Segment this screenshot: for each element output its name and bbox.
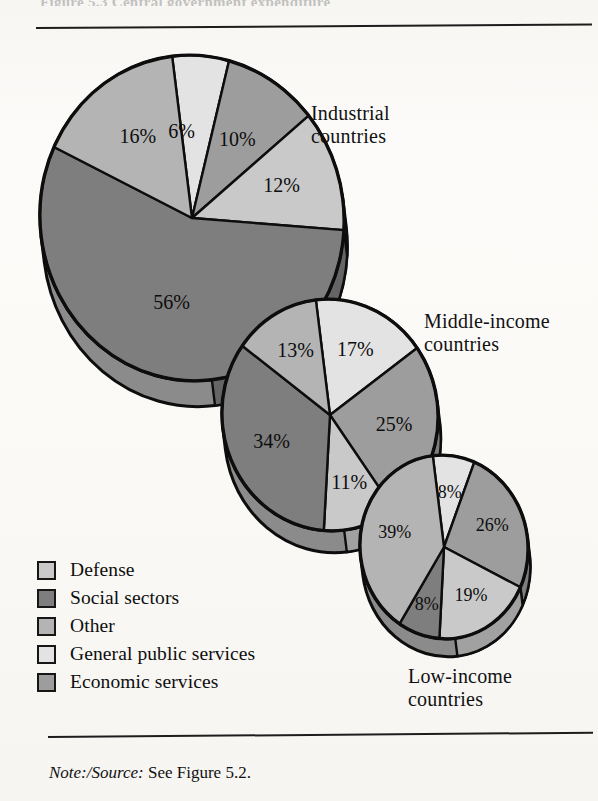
pie-industrial-label-other: 16% xyxy=(120,125,157,147)
pie-low-label-social-sectors: 8% xyxy=(415,594,439,614)
legend-swatch-economic xyxy=(37,673,56,692)
figure-page: Figure 5.3 Central government expenditur… xyxy=(0,0,598,801)
legend-swatch-defense xyxy=(37,561,56,580)
legend-label-other: Other xyxy=(70,616,115,636)
pie-middle-label-social-sectors: 34% xyxy=(253,430,290,452)
pie-industrial-label-general-public-services: 6% xyxy=(168,120,195,142)
legend-item-general_public: General public services xyxy=(37,640,255,668)
source-note-text: See Figure 5.2. xyxy=(144,763,251,782)
legend-label-general_public: General public services xyxy=(70,644,255,664)
legend-swatch-general_public xyxy=(37,645,56,664)
legend-label-social_sectors: Social sectors xyxy=(70,588,179,608)
pie-low-label-general-public-services: 8% xyxy=(438,482,462,502)
legend-item-defense: Defense xyxy=(37,556,255,584)
pie-middle-label-defense: 11% xyxy=(331,471,367,493)
legend-item-economic: Economic services xyxy=(37,668,255,696)
source-note: Note:/Source: See Figure 5.2. xyxy=(49,763,251,783)
pie-industrial-label-social-sectors: 56% xyxy=(153,291,190,313)
top-rule xyxy=(36,24,592,29)
caption-middle-income-countries: Middle-incomecountries xyxy=(424,310,550,356)
pie-middle-label-economic-services: 25% xyxy=(376,413,413,435)
legend-item-other: Other xyxy=(37,612,255,640)
source-note-prefix: Note:/Source: xyxy=(49,763,144,782)
pie-chart-area: 6%10%12%56%16%17%25%11%34%13%8%26%19%8%3… xyxy=(0,32,598,732)
clipped-figure-heading: Figure 5.3 Central government expenditur… xyxy=(40,0,460,6)
legend-item-social_sectors: Social sectors xyxy=(37,584,255,612)
pie-middle-label-other: 13% xyxy=(277,339,314,361)
pie-middle-label-general-public-services: 17% xyxy=(337,338,374,360)
legend-swatch-other xyxy=(37,617,56,636)
pie-low-label-other: 39% xyxy=(378,522,411,542)
legend-swatch-social_sectors xyxy=(37,589,56,608)
caption-industrial-countries: Industrialcountries xyxy=(311,102,390,148)
caption-low-income-countries: Low-incomecountries xyxy=(408,665,512,711)
pie-low-label-economic-services: 26% xyxy=(476,515,509,535)
pie-low-label-defense: 19% xyxy=(454,585,487,605)
pie-industrial-label-economic-services: 10% xyxy=(219,128,256,150)
legend-label-economic: Economic services xyxy=(70,672,218,692)
bottom-rule xyxy=(48,732,593,738)
pie-industrial-label-defense: 12% xyxy=(263,174,300,196)
legend-label-defense: Defense xyxy=(70,560,135,580)
legend: DefenseSocial sectorsOtherGeneral public… xyxy=(37,556,255,696)
